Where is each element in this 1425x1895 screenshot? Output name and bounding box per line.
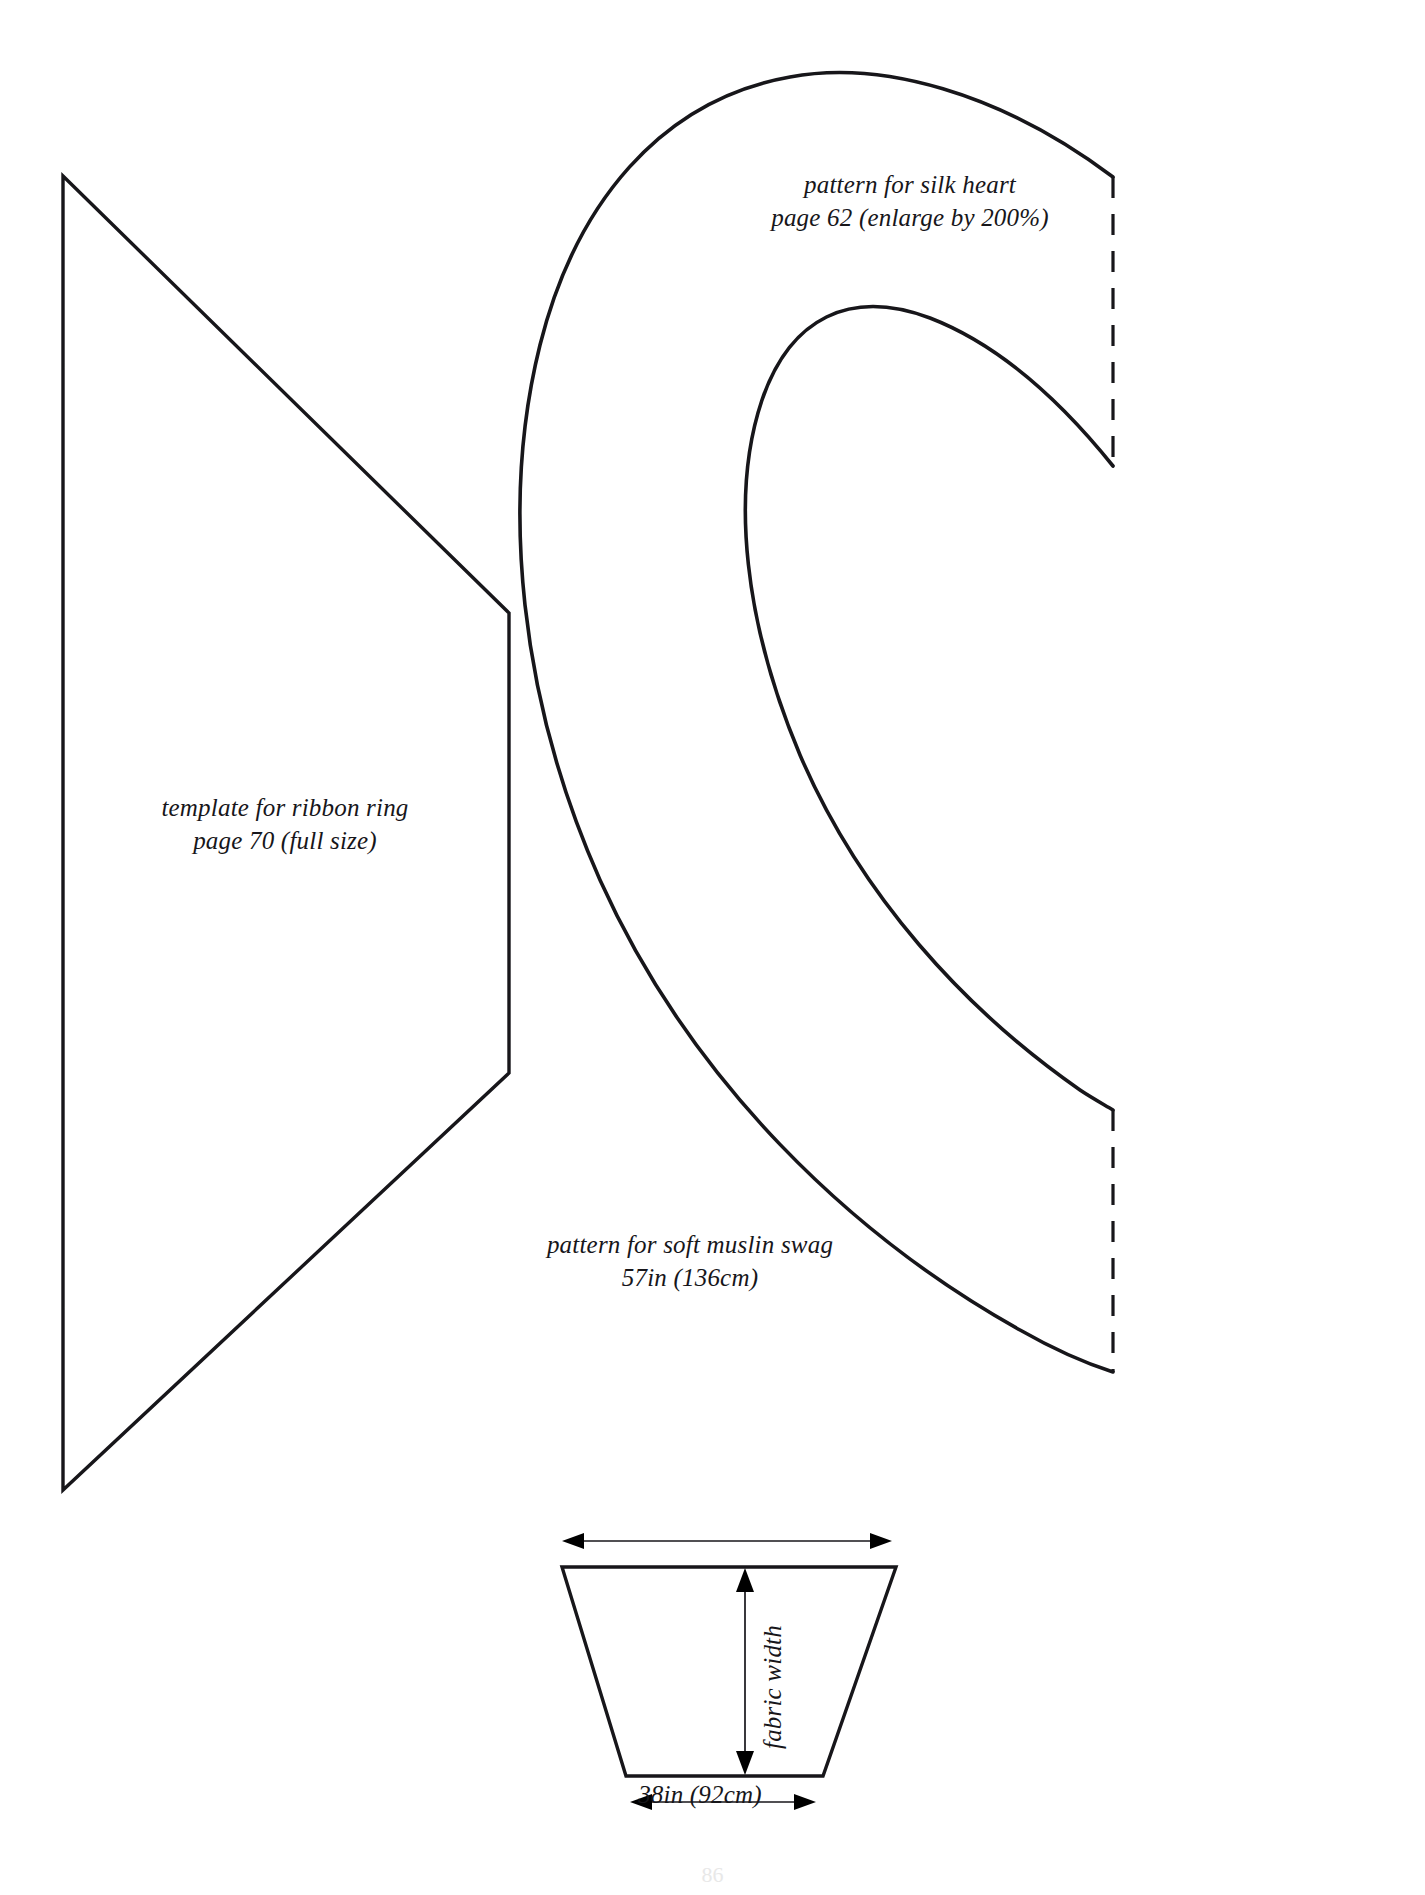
page-number: 86 <box>0 1862 1425 1888</box>
silk-heart-outer-edge <box>520 73 1113 1372</box>
silk-heart-label-line1: pattern for silk heart <box>700 168 1120 201</box>
pattern-artwork <box>0 0 1425 1895</box>
silk-heart-label-line2: page 62 (enlarge by 200%) <box>700 201 1120 234</box>
ribbon-ring-label: template for ribbon ring page 70 (full s… <box>85 791 485 858</box>
pattern-sheet-page: pattern for silk heart page 62 (enlarge … <box>0 0 1425 1895</box>
ribbon-ring-label-line2: page 70 (full size) <box>85 824 485 857</box>
muslin-swag-outline <box>562 1567 896 1776</box>
muslin-swag-top-width-value: 57in (136cm) <box>480 1261 900 1294</box>
muslin-swag-label-line1: pattern for soft muslin swag <box>480 1228 900 1261</box>
ribbon-ring-label-line1: template for ribbon ring <box>85 791 485 824</box>
top-width-dimension-arrow <box>562 1533 892 1549</box>
silk-heart-label: pattern for silk heart page 62 (enlarge … <box>700 168 1120 235</box>
muslin-swag-label: pattern for soft muslin swag 57in (136cm… <box>480 1228 900 1295</box>
muslin-swag-bottom-width-value: 38in (92cm) <box>490 1778 910 1811</box>
fabric-width-label: fabric width <box>756 1625 789 1749</box>
silk-heart-inner-edge <box>745 307 1113 1110</box>
fabric-width-dimension-arrow <box>736 1568 754 1775</box>
